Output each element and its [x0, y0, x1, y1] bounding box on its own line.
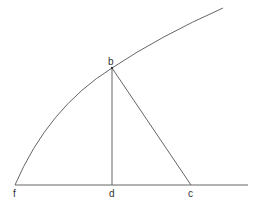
label-c: c: [188, 188, 193, 199]
point-b-marker: [111, 67, 113, 69]
geometry-diagram: b f d c: [0, 0, 260, 205]
segment-bc: [112, 68, 191, 185]
curve-fb: [15, 8, 223, 185]
label-d: d: [109, 188, 115, 199]
label-f: f: [13, 188, 16, 199]
label-b: b: [108, 56, 114, 67]
